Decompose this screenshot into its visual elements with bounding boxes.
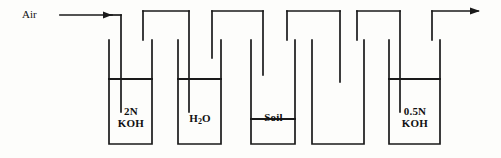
vessel-3-beaker — [251, 40, 295, 144]
vessel-2-beaker — [178, 40, 221, 144]
vessel-2-label: H2O — [178, 112, 222, 128]
vessel-1-outlet-tube — [143, 11, 189, 40]
vessel-3-label-line1: Soil — [264, 111, 283, 123]
vessel-2-outlet-tube — [212, 11, 263, 58]
vessel-5-label: 0.5N KOH — [389, 105, 441, 129]
vessel-3-outlet-tube — [287, 11, 340, 40]
inlet-label: Air — [22, 8, 37, 20]
apparatus-schematic — [0, 0, 501, 158]
vessel-3-label: Soil — [251, 111, 296, 123]
vessel-1-label-line2: KOH — [118, 117, 144, 129]
vessel-5-outlet-tube — [432, 11, 478, 40]
vessel-4-outlet-tube — [357, 11, 400, 40]
vessel-2-label-line1-tail: O — [202, 112, 211, 124]
vessel-2-label-line1: H — [189, 112, 198, 124]
vessel-1-label-line1: 2N — [124, 105, 138, 117]
vessel-5-label-line1: 0.5N — [404, 105, 427, 117]
vessel-1-label: 2N KOH — [109, 105, 153, 129]
outlet-air-arrow — [470, 8, 480, 15]
tube-inlet-to-vessel-1 — [105, 15, 121, 112]
vessel-5-label-line2: KOH — [402, 117, 428, 129]
vessel-4-beaker — [312, 40, 364, 144]
gas-washing-train-diagram: Air 2N KOH H2O Soil 0.5N KOH — [0, 0, 501, 158]
